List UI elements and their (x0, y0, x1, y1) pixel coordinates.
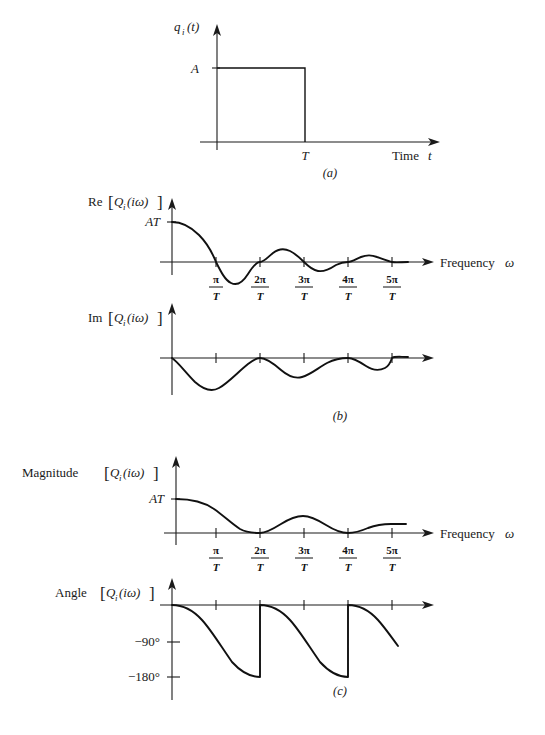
magnitude-label-arg: (iω) (123, 465, 144, 480)
angle-label-arg: (iω) (119, 585, 140, 600)
magnitude-tick-label-5-den: T (389, 561, 397, 573)
magnitude-tick-label-1-den: T (213, 561, 221, 573)
magnitude-tick-label-3: 3π T (295, 544, 313, 573)
magnitude-tick-label-2: 2π T (251, 544, 269, 573)
imag-y-axis-label: Im [ Q i (iω) ] (88, 309, 163, 328)
fourier-transform-figure: A T q i (t) Time t (a) AT (0, 0, 545, 735)
real-label-fn: Re (88, 194, 103, 209)
real-tick-label-3: 3π T (295, 273, 313, 302)
imag-label-close: ] (157, 309, 163, 328)
real-label-sub: i (123, 202, 126, 212)
angle-ytick-label-1: −90° (134, 634, 160, 649)
imag-label-sub: i (123, 318, 126, 328)
real-tick-label-1: π T (209, 273, 223, 302)
real-tick-label-2-num: 2π (254, 273, 266, 285)
real-y-axis-label: Re [ Q i (iω) ] (88, 193, 163, 212)
panel-a-y-axis-label-text: q (174, 19, 181, 34)
magnitude-tick-label-2-num: 2π (254, 544, 266, 556)
panel-a-y-axis-label-sub: i (182, 27, 185, 37)
magnitude-tick-label-1: π T (209, 544, 223, 573)
magnitude-x-axis-label: Frequency ω (440, 526, 514, 541)
magnitude-curve (176, 499, 406, 533)
imag-label-arg: (iω) (127, 310, 148, 325)
magnitude-peak-label: AT (148, 491, 164, 506)
magnitude-tick-label-4-num: 4π (342, 544, 354, 556)
real-tick-label-3-den: T (301, 290, 309, 302)
real-tick-label-4: 4π T (339, 273, 357, 302)
panel-a-x-axis-label-text: Time (392, 148, 419, 163)
real-xlabel-main: Frequency (440, 255, 495, 270)
angle-label-close: ] (149, 584, 155, 603)
real-label-arg: (iω) (127, 194, 148, 209)
magnitude-tick-label-5: 5π T (383, 544, 401, 573)
real-tick-label-4-num: 4π (342, 273, 354, 285)
panel-a: A T q i (t) Time t (a) (174, 19, 440, 180)
magnitude-tick-labels: π T 2π T 3π T 4π T 5π T (209, 544, 401, 573)
panel-a-x-axis-label: Time t (392, 148, 432, 163)
caption-c: (c) (333, 684, 347, 698)
magnitude-xlabel-sym: ω (505, 526, 514, 541)
amplitude-label: A (190, 61, 199, 76)
real-tick-label-1-num: π (213, 273, 219, 285)
real-tick-label-5-den: T (389, 290, 397, 302)
panel-a-x-axis-label-var: t (428, 148, 432, 163)
real-tick-label-4-den: T (345, 290, 353, 302)
panel-c-magnitude: AT Magnitude [ Q i (iω) ] Frequency ω π (22, 456, 514, 573)
real-tick-label-3-num: 3π (298, 273, 310, 285)
angle-y-axis-label: Angle [ Q i (iω) ] (55, 584, 155, 603)
real-peak-label: AT (144, 214, 160, 229)
real-xlabel-sym: ω (505, 255, 514, 270)
panel-a-y-axis-label: q i (t) (174, 19, 199, 37)
magnitude-label-close: ] (153, 464, 159, 483)
real-tick-label-1-den: T (213, 290, 221, 302)
magnitude-tick-label-3-den: T (301, 561, 309, 573)
panel-a-y-axis-label-arg: (t) (187, 19, 199, 34)
real-tick-label-2: 2π T (251, 273, 269, 302)
imaginary-part-curve (172, 357, 408, 390)
angle-curve (172, 605, 398, 677)
magnitude-tick-label-4-den: T (345, 561, 353, 573)
pulse-waveform (217, 68, 305, 142)
real-tick-label-5-num: 5π (386, 273, 398, 285)
magnitude-xlabel-main: Frequency (440, 526, 495, 541)
real-tick-labels: π T 2π T 3π T 4π T 5π T (209, 273, 401, 302)
real-label-close: ] (157, 193, 163, 212)
magnitude-tick-label-5-num: 5π (386, 544, 398, 556)
caption-b: (b) (333, 409, 348, 423)
angle-ytick-label-2: −180° (128, 669, 160, 684)
real-x-axis-label: Frequency ω (440, 255, 514, 270)
real-part-curve (172, 222, 408, 284)
magnitude-tick-label-2-den: T (257, 561, 265, 573)
magnitude-tick-label-4: 4π T (339, 544, 357, 573)
magnitude-tick-label-3-num: 3π (298, 544, 310, 556)
imag-label-fn: Im (88, 310, 102, 325)
real-tick-label-2-den: T (257, 290, 265, 302)
panel-b-imag: Im [ Q i (iω) ] (b) (88, 303, 434, 423)
duration-label: T (301, 148, 309, 163)
panel-c-angle: −90° −180° Angle [ Q i (iω) ] (c) (55, 578, 434, 700)
panel-b-real: AT Re [ Q i (iω) ] Frequency ω π (88, 193, 514, 302)
magnitude-label-sub: i (119, 473, 122, 483)
magnitude-tick-label-1-num: π (213, 544, 219, 556)
magnitude-label-fn: Magnitude (22, 465, 79, 480)
angle-label-fn: Angle (55, 585, 87, 600)
magnitude-y-axis-label: Magnitude [ Q i (iω) ] (22, 464, 159, 483)
angle-label-sub: i (115, 593, 118, 603)
caption-a: (a) (323, 166, 338, 180)
real-tick-label-5: 5π T (383, 273, 401, 302)
